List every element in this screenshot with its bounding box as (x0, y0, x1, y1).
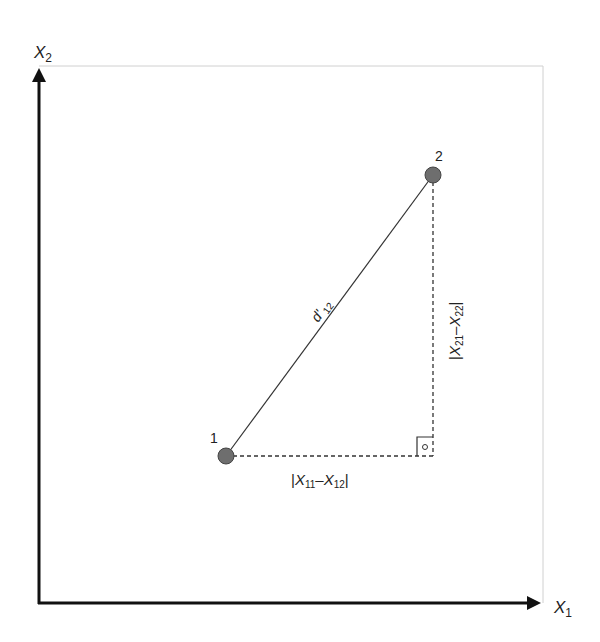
y-axis-arrow-icon (32, 68, 46, 82)
point-1-label: 1 (210, 430, 218, 446)
svg-text:|X21–X22|: |X21–X22| (446, 302, 465, 360)
distance-label: d'12 (308, 296, 337, 326)
x-axis-arrow-icon (527, 596, 541, 610)
x-axis-label: X1 (553, 598, 572, 620)
right-angle-dot-icon (423, 445, 428, 450)
point-2 (425, 167, 441, 183)
svg-text:d'12: d'12 (308, 296, 337, 326)
point-2-label: 2 (435, 148, 443, 164)
point-1 (218, 448, 234, 464)
vertical-difference-label: |X21–X22| (446, 302, 465, 360)
y-axis-label: X2 (33, 43, 52, 65)
horizontal-difference-label: |X11–X12| (291, 471, 349, 490)
distance-diagram: X2 X1 1 2 d'12 |X11–X12| |X21–X22| (0, 0, 600, 642)
right-angle-marker (417, 437, 433, 456)
